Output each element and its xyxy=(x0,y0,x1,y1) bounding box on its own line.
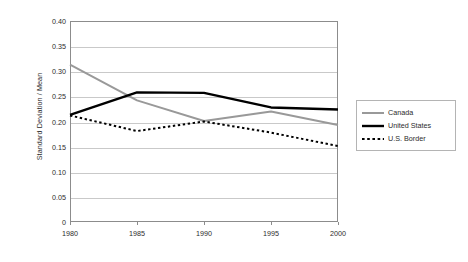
legend-item[interactable]: U.S. Border xyxy=(362,132,450,145)
legend-item[interactable]: United States xyxy=(362,119,450,132)
y-tick-label: 0.15 xyxy=(30,142,66,151)
gray-solid-line-icon xyxy=(362,108,384,118)
data-series-layer xyxy=(70,21,338,222)
legend-label: United States xyxy=(388,121,431,131)
x-tick-mark xyxy=(70,222,71,225)
x-tick-mark xyxy=(271,222,272,225)
series-line-united-states xyxy=(70,92,338,115)
line-chart: Standard Deviation / Mean 0.400.350.300.… xyxy=(0,0,468,262)
black-solid-line-icon xyxy=(362,121,384,131)
y-tick-label: 0.40 xyxy=(30,17,66,26)
y-tick-label: 0.10 xyxy=(30,167,66,176)
legend-label: Canada xyxy=(388,108,413,118)
x-tick-label: 1985 xyxy=(117,229,157,238)
y-tick-label: 0 xyxy=(30,218,66,227)
legend-label: U.S. Border xyxy=(388,134,426,144)
y-axis-tick-labels: 0.400.350.300.250.200.150.100.050 xyxy=(30,0,66,262)
x-tick-label: 1980 xyxy=(50,229,90,238)
legend: CanadaUnited StatesU.S. Border xyxy=(356,100,456,151)
black-dotted-line-icon xyxy=(362,134,384,144)
legend-item[interactable]: Canada xyxy=(362,106,450,119)
x-tick-label: 2000 xyxy=(318,229,358,238)
series-line-canada xyxy=(70,65,338,125)
y-tick-label: 0.25 xyxy=(30,92,66,101)
y-tick-label: 0.20 xyxy=(30,117,66,126)
x-tick-label: 1995 xyxy=(251,229,291,238)
x-tick-label: 1990 xyxy=(184,229,224,238)
x-tick-mark xyxy=(137,222,138,225)
y-tick-label: 0.30 xyxy=(30,67,66,76)
x-tick-mark xyxy=(204,222,205,225)
y-tick-label: 0.05 xyxy=(30,192,66,201)
y-tick-label: 0.35 xyxy=(30,42,66,51)
x-tick-mark xyxy=(338,222,339,225)
